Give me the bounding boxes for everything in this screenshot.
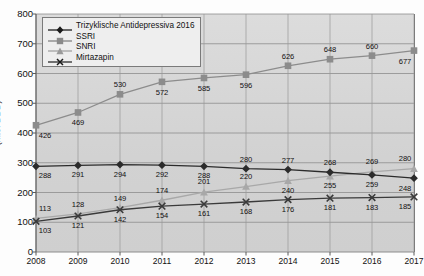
data-label: 168 [240, 208, 253, 216]
data-label: 121 [72, 222, 85, 230]
data-label: 181 [324, 204, 337, 212]
data-label: 288 [39, 173, 52, 181]
data-label: 128 [72, 201, 85, 209]
data-point-marker [33, 122, 40, 129]
data-point-marker [201, 75, 208, 82]
legend-label-mirtazapin: Mirtazapin [73, 54, 114, 62]
legend-item-mirtazapin[interactable]: Mirtazapin [47, 53, 194, 64]
x-axis-tick-label: 2016 [363, 256, 382, 266]
data-label: 426 [39, 132, 52, 140]
data-point-marker [369, 52, 376, 59]
series-line [36, 169, 414, 219]
chart-screenshot: 0100200300400500600700800 42646953057258… [0, 0, 424, 276]
data-label: 280 [399, 155, 412, 163]
x-axis-tick-label: 2010 [111, 256, 130, 266]
data-label: 259 [366, 181, 379, 189]
legend-item-snri[interactable]: SNRI [47, 42, 194, 53]
series-line [36, 197, 414, 221]
data-point-marker [285, 62, 292, 69]
data-label: 677 [399, 58, 412, 66]
x-marker-icon [47, 53, 73, 63]
data-label: 174 [156, 187, 169, 195]
data-label: 585 [198, 85, 211, 93]
data-label: 176 [282, 206, 295, 214]
x-axis-tick-label: 2012 [195, 256, 214, 266]
y-axis-tick-label: 500 [5, 99, 33, 109]
data-label: 154 [156, 212, 169, 220]
y-axis-tick-label: 200 [5, 188, 33, 198]
data-label: 269 [366, 158, 379, 166]
legend-label-snri: SNRI [73, 43, 96, 51]
data-point-marker [159, 79, 166, 86]
data-label: 280 [240, 156, 253, 164]
y-axis-tick-label: 700 [5, 39, 33, 49]
diamond-marker-icon [47, 21, 73, 31]
chart-legend: Trizyklische Antidepressiva 2016 SSRI SN… [42, 17, 201, 67]
data-label: 185 [399, 203, 412, 211]
data-label: 626 [282, 53, 295, 61]
data-label: 248 [399, 185, 412, 193]
data-label: 142 [114, 216, 127, 224]
data-label: 660 [366, 43, 379, 51]
y-axis-tick-label: 300 [5, 158, 33, 168]
data-label: 255 [324, 182, 337, 190]
y-axis-tick-label: 800 [5, 9, 33, 19]
legend-label-tca: Trizyklische Antidepressiva 2016 [73, 22, 194, 30]
data-label: 291 [72, 172, 85, 180]
x-axis-tick-label: 2014 [279, 256, 298, 266]
data-label: 161 [198, 210, 211, 218]
x-axis-tick-labels: 2008200920102011201220132014201520162017 [36, 253, 414, 271]
data-point-marker [32, 162, 40, 170]
data-point-marker [410, 174, 418, 182]
data-point-marker [200, 162, 208, 170]
data-label: 648 [324, 46, 337, 54]
data-label: 530 [114, 82, 127, 90]
data-label: 469 [72, 120, 85, 128]
legend-item-ssri[interactable]: SSRI [47, 32, 194, 43]
y-axis-tick-label: 100 [5, 218, 33, 228]
data-point-marker [411, 47, 418, 54]
data-point-marker [75, 109, 82, 116]
x-axis-tick-label: 2011 [153, 256, 171, 266]
data-label: 572 [156, 89, 169, 97]
triangle-marker-icon [47, 42, 73, 52]
x-axis-tick-label: 2013 [237, 256, 256, 266]
data-label: 220 [240, 173, 253, 181]
data-label: 288 [198, 173, 211, 181]
x-axis-tick-label: 2017 [405, 256, 424, 266]
data-label: 277 [282, 157, 295, 165]
y-axis-tick-labels: 0100200300400500600700800 [0, 14, 33, 252]
data-label: 113 [39, 206, 51, 214]
data-label: 268 [324, 159, 337, 167]
x-axis-tick-label: 2015 [321, 256, 340, 266]
data-label: 240 [282, 187, 295, 195]
y-axis-title: (Mio. DDD) [0, 101, 2, 146]
data-point-marker [116, 161, 124, 169]
x-axis-tick-label: 2009 [69, 256, 88, 266]
x-axis-tick-label: 2008 [27, 256, 46, 266]
y-axis-tick-label: 600 [5, 69, 33, 79]
data-point-marker [284, 166, 292, 174]
legend-label-ssri: SSRI [73, 33, 95, 41]
series-line [36, 165, 414, 179]
legend-item-tca[interactable]: Trizyklische Antidepressiva 2016 [47, 21, 194, 32]
square-marker-icon [47, 32, 73, 42]
data-label: 294 [114, 171, 127, 179]
data-label: 292 [156, 171, 169, 179]
data-label: 183 [366, 204, 379, 212]
data-label: 149 [114, 195, 127, 203]
data-point-marker [327, 56, 334, 63]
data-point-marker [243, 71, 250, 78]
data-label: 596 [240, 82, 253, 90]
y-axis-tick-label: 400 [5, 128, 33, 138]
data-label: 103 [39, 228, 52, 236]
data-point-marker [117, 91, 124, 98]
data-point-marker [326, 168, 334, 176]
